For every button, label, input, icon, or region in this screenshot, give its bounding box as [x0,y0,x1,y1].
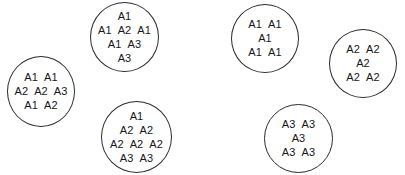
element-label: A2 [363,72,383,83]
element-row: A1 [127,111,147,122]
element-row: A3A3 [117,153,156,164]
element-label: A1 [255,33,275,44]
element-label: A1 [134,25,154,36]
element-row: A3A3 [279,147,318,158]
element-row: A1 [115,11,135,22]
element-label: A3 [125,39,145,50]
element-label: A3 [299,147,319,158]
element-label: A2 [127,139,147,150]
element-row: A2A2A3 [12,86,71,97]
element-label: A1 [265,19,285,30]
element-label: A2 [363,44,383,55]
element-label: A1 [265,47,285,58]
element-label: A3 [289,133,309,144]
set-circle-bottom-right-group[interactable]: A3A3A3A3A3 [264,104,333,173]
element-row: A3A3 [279,119,318,130]
element-label: A2 [31,86,51,97]
element-label: A2 [146,139,166,150]
element-row: A1A1 [245,47,284,58]
element-row: A2 [353,58,373,69]
element-label: A3 [279,119,299,130]
set-circle-top-center-group[interactable]: A1A1A2A1A1A3A3 [90,2,159,72]
element-row: A3 [115,53,135,64]
set-circle-top-right-group[interactable]: A1A1A1A1A1 [231,4,299,73]
element-label: A1 [105,39,125,50]
element-label: A1 [41,72,61,83]
set-circle-left-group[interactable]: A1A1A2A2A3A1A2 [7,56,75,127]
set-circle-bottom-center-group[interactable]: A1A2A2A2A2A2A3A3 [101,101,172,173]
element-label: A2 [137,125,157,136]
element-row: A3 [289,133,309,144]
element-row: A2A2 [343,72,382,83]
element-row: A2A2 [117,125,156,136]
element-label: A1 [115,11,135,22]
element-label: A3 [279,147,299,158]
element-label: A2 [107,139,127,150]
element-label: A3 [117,153,137,164]
element-row: A1A2A1 [95,25,154,36]
element-row: A2A2A2 [107,139,166,150]
element-label: A2 [115,25,135,36]
element-label: A1 [127,111,147,122]
element-row: A1A1 [21,72,60,83]
element-label: A3 [299,119,319,130]
element-row: A1 [255,33,275,44]
element-row: A1A3 [105,39,144,50]
set-circle-far-right-group[interactable]: A2A2A2A2A2 [329,29,397,98]
element-label: A1 [95,25,115,36]
element-row: A1A1 [245,19,284,30]
element-label: A2 [12,86,32,97]
element-label: A1 [21,72,41,83]
element-label: A2 [343,72,363,83]
element-label: A2 [353,58,373,69]
element-label: A1 [245,19,265,30]
element-label: A2 [343,44,363,55]
element-label: A1 [245,47,265,58]
element-row: A2A2 [343,44,382,55]
element-label: A2 [41,100,61,111]
element-label: A2 [117,125,137,136]
element-label: A3 [51,86,71,97]
diagram-canvas: A1A1A2A2A3A1A2 A1A1A2A1A1A3A3 A1A2A2A2A2… [0,0,405,175]
element-row: A1A2 [21,100,60,111]
element-label: A3 [115,53,135,64]
element-label: A1 [21,100,41,111]
element-label: A3 [137,153,157,164]
